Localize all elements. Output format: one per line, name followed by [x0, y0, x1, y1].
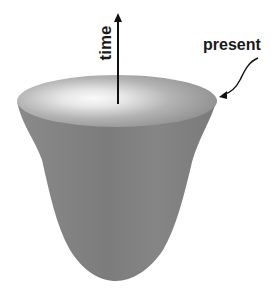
present-arrow-head-icon — [219, 91, 227, 99]
present-label: present — [203, 36, 261, 54]
bowl-surface — [17, 100, 217, 281]
spacetime-diagram: time present — [0, 0, 276, 299]
time-label: time — [96, 21, 116, 65]
present-pointer-arrow — [223, 58, 258, 95]
